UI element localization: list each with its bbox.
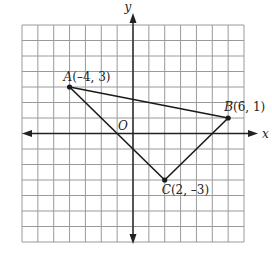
x-axis-arrow-right-icon xyxy=(248,130,258,137)
x-axis-label: x xyxy=(262,127,269,141)
labels: A(–4, 3)B(6, 1)C(2, –3)yxO xyxy=(63,0,269,197)
axes xyxy=(22,13,258,244)
y-axis-label: y xyxy=(124,0,132,14)
vertex-b-dot xyxy=(226,115,231,120)
coordinate-plane: A(–4, 3)B(6, 1)C(2, –3)yxO xyxy=(0,0,272,259)
point-label-b: B(6, 1) xyxy=(223,100,265,114)
x-axis-arrow-left-icon xyxy=(22,130,32,137)
point-label-a: A(–4, 3) xyxy=(63,70,111,84)
plane-svg: A(–4, 3)B(6, 1)C(2, –3)yxO xyxy=(0,0,272,259)
vertex-a-dot xyxy=(67,84,72,89)
origin-label: O xyxy=(118,119,128,133)
vertex-c-dot xyxy=(162,177,167,182)
y-axis-arrow-up-icon xyxy=(130,13,137,23)
point-label-c: C(2, –3) xyxy=(162,183,209,197)
